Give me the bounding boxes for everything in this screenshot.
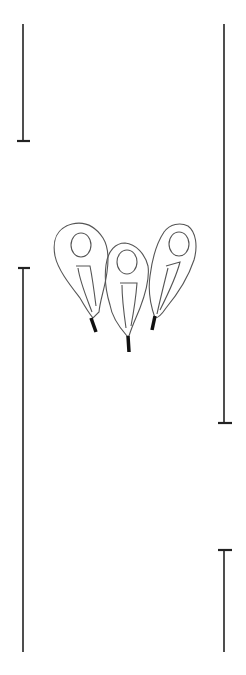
left-lower-bar (18, 268, 30, 652)
flame-right-icon (149, 224, 196, 330)
right-upper-bar (218, 24, 232, 423)
left-upper-bar (17, 24, 30, 141)
flame-left-icon (54, 223, 108, 332)
diagram-canvas (0, 0, 246, 675)
right-lower-bar (218, 550, 232, 652)
flame-middle-icon (105, 243, 148, 352)
